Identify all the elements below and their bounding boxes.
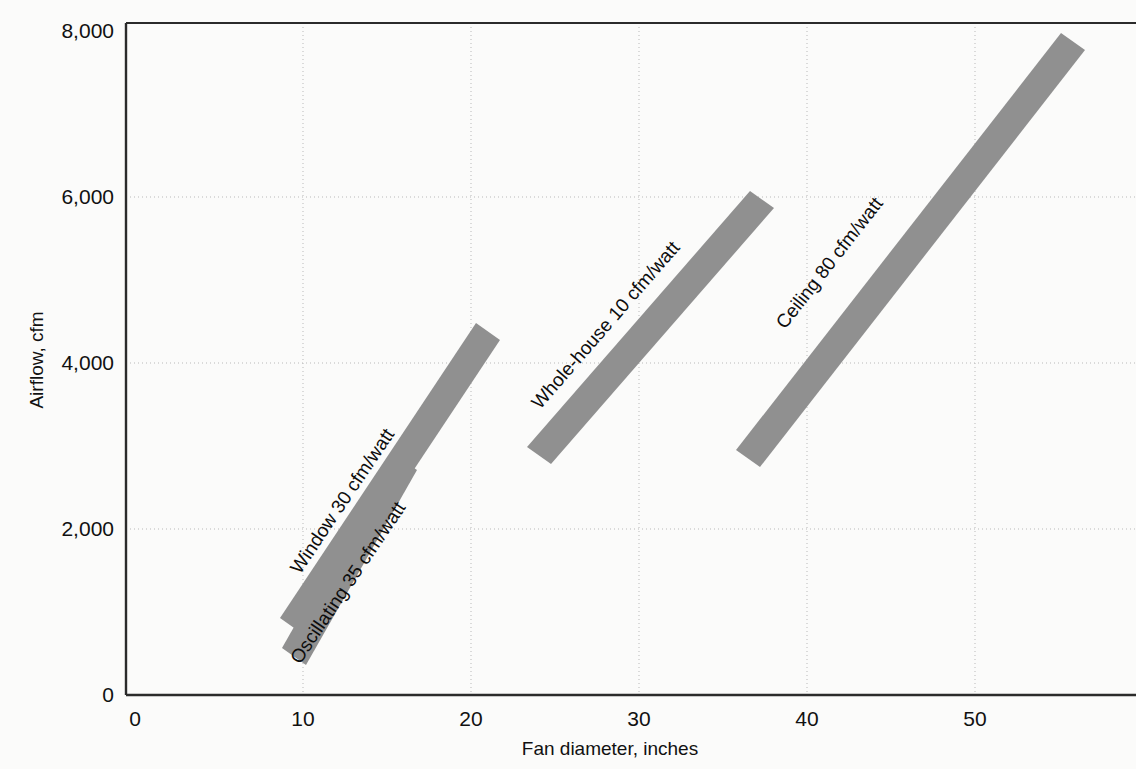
x-axis-title: Fan diameter, inches [522,738,698,759]
y-axis-title: Airflow, cfm [26,311,47,408]
x-tick-label-30: 30 [627,707,650,730]
y-tick-label-8000: 8,000 [61,19,114,42]
page-background [0,0,1136,769]
y-tick-label-0: 0 [102,683,114,706]
x-tick-label-20: 20 [459,707,482,730]
x-tick-label-50: 50 [963,707,986,730]
chart-container: Window 30 cfm/watt Oscillating 35 cfm/wa… [0,0,1136,769]
x-tick-label-0: 0 [129,707,141,730]
y-tick-label-2000: 2,000 [61,517,114,540]
airflow-vs-fan-diameter-chart: Window 30 cfm/watt Oscillating 35 cfm/wa… [0,0,1136,769]
y-tick-label-6000: 6,000 [61,185,114,208]
x-tick-label-10: 10 [291,707,314,730]
y-tick-label-4000: 4,000 [61,351,114,374]
x-tick-label-40: 40 [795,707,818,730]
